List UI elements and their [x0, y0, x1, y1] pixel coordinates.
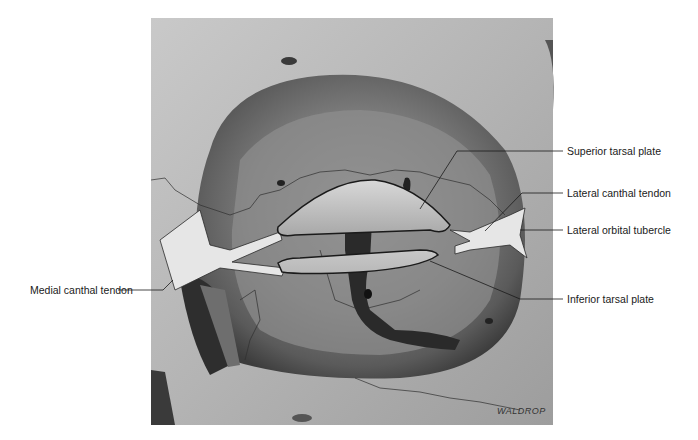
label-lateral-canthal-tendon: Lateral canthal tendon — [567, 187, 671, 199]
label-medial-canthal-tendon: Medial canthal tendon — [30, 284, 133, 296]
label-inferior-tarsal-plate: Inferior tarsal plate — [567, 293, 654, 305]
orbit-illustration — [0, 0, 698, 440]
artist-signature: WALDROP — [497, 405, 546, 417]
label-lateral-orbital-tubercle: Lateral orbital tubercle — [567, 224, 671, 236]
label-superior-tarsal-plate: Superior tarsal plate — [567, 145, 661, 157]
